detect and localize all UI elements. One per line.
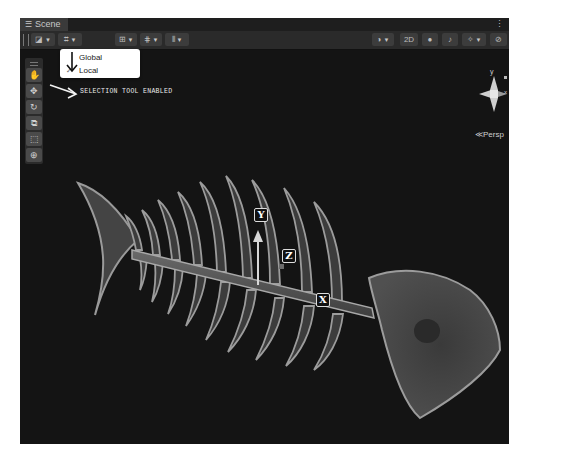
- annotation-arrows: [0, 0, 569, 460]
- selection-tool-annotation: SELECTION TOOL ENABLED: [80, 88, 172, 95]
- right-arrow-icon: [50, 85, 76, 98]
- down-arrow-icon: [67, 52, 77, 71]
